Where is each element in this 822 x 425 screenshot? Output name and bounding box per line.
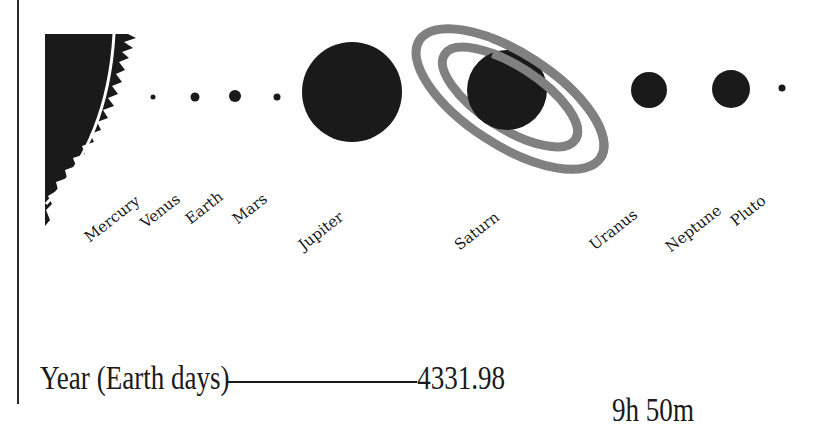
planet-mars-icon (274, 94, 281, 101)
planet-saturn-icon (394, 2, 625, 197)
stat-value-year: 4331.98 (417, 360, 505, 397)
stat-row-partial: 9h 50m (612, 392, 694, 425)
planet-earth-icon (229, 90, 241, 102)
leader-line (226, 381, 417, 383)
planet-venus-icon (191, 93, 200, 102)
planet-uranus-icon (631, 72, 667, 108)
planet-jupiter-icon (302, 42, 402, 142)
stat-label-year: Year (Earth days) (40, 360, 230, 397)
planet-neptune-icon (712, 70, 750, 108)
planet-mercury-icon (151, 95, 156, 100)
planet-pluto-icon (779, 85, 786, 92)
sun-icon (45, 34, 136, 226)
